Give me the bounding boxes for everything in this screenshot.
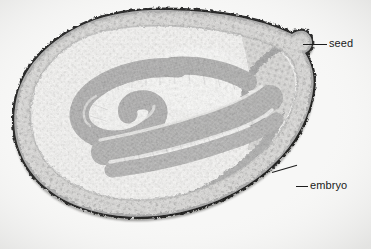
label-seed: seed bbox=[329, 38, 353, 49]
leader-line-seed bbox=[303, 44, 327, 45]
micrograph-figure: seed embryo bbox=[0, 0, 371, 249]
label-embryo: embryo bbox=[310, 180, 347, 191]
micrograph-canvas bbox=[0, 0, 371, 249]
plate-vignette bbox=[0, 0, 371, 249]
seed-section-micrograph bbox=[0, 0, 371, 249]
leader-line-embryo bbox=[296, 186, 308, 187]
